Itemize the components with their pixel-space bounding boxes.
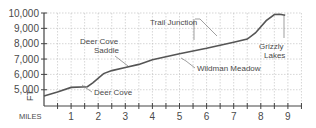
elevation-chart: 5,0006,0007,0008,0009,00010,000 12345678… — [0, 0, 316, 128]
x-tick-label: 2 — [95, 111, 101, 122]
x-tick-label: 1 — [68, 111, 74, 122]
y-tick-label: 7,000 — [14, 54, 39, 65]
y-axis-label: FT — [25, 90, 35, 101]
annotation-leader — [195, 19, 217, 36]
chart-svg: 5,0006,0007,0008,0009,00010,000 12345678… — [0, 0, 316, 128]
annotation-deer-cove: Deer Cove — [94, 88, 133, 97]
annotation-deer-cove-saddle-1: Deer Cove — [80, 37, 119, 46]
y-axis-ticks: 5,0006,0007,0008,0009,00010,000 — [8, 8, 47, 96]
x-tick-label: 7 — [231, 111, 237, 122]
annotation-wildman-meadow: Wildman Meadow — [197, 64, 261, 73]
y-tick-label: 9,000 — [14, 23, 39, 34]
y-tick-label: 6,000 — [14, 69, 39, 80]
x-tick-label: 3 — [123, 111, 129, 122]
x-tick-label: 8 — [258, 111, 264, 122]
y-tick-label: 8,000 — [14, 38, 39, 49]
x-axis-label: MILES — [19, 112, 42, 121]
annotation-grizzly-1: Grizzly — [259, 42, 283, 51]
annotation-leader — [115, 56, 128, 66]
x-tick-label: 9 — [285, 111, 291, 122]
annotation-deer-cove-saddle-2: Saddle — [94, 46, 119, 55]
x-tick-label: 5 — [177, 111, 183, 122]
annotation-grizzly-2: Lakes — [264, 51, 285, 60]
y-tick-label: 10,000 — [8, 8, 39, 19]
x-tick-label: 6 — [204, 111, 210, 122]
x-tick-label: 4 — [150, 111, 156, 122]
annotation-trail-junction: Trail Junction — [150, 18, 197, 27]
